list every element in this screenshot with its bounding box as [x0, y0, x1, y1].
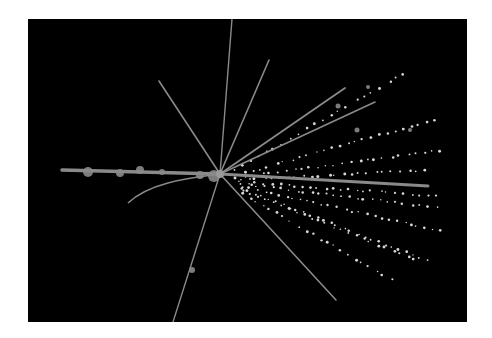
- track-dot: [423, 226, 426, 229]
- track-dot: [340, 195, 342, 197]
- dots-2: [236, 119, 435, 176]
- track-dot: [320, 239, 322, 241]
- track-dot: [409, 169, 412, 172]
- track-dot: [369, 92, 371, 94]
- track-dot: [281, 161, 282, 162]
- track-dot: [277, 194, 280, 197]
- track-dot: [377, 271, 379, 273]
- track-dot: [347, 188, 350, 191]
- track-dot: [241, 192, 244, 195]
- track-dot: [396, 219, 398, 221]
- track-dot: [309, 186, 312, 189]
- track-dot: [317, 167, 319, 169]
- track-dot: [360, 261, 362, 263]
- track-dot: [300, 199, 302, 201]
- track-dot: [345, 228, 347, 230]
- track-dot: [332, 187, 335, 190]
- dots-9: [241, 192, 393, 281]
- track-dot: [301, 191, 304, 194]
- track-dot: [316, 151, 317, 152]
- track-dot: [412, 254, 413, 255]
- track-dot: [326, 241, 329, 244]
- track-dot: [387, 132, 389, 134]
- track-dot: [415, 225, 417, 227]
- track-dot: [298, 156, 300, 158]
- track-dot: [288, 190, 290, 192]
- track-left-curve: [128, 174, 220, 203]
- track-dot: [317, 219, 320, 222]
- track-dot: [263, 205, 265, 207]
- track-dot: [348, 142, 350, 144]
- track-dot: [355, 259, 358, 262]
- track-dot: [357, 172, 359, 174]
- track-dot: [365, 172, 367, 174]
- track-dot: [316, 175, 319, 178]
- collision-vertex: [216, 170, 224, 178]
- track-dot: [380, 199, 381, 200]
- track-dot: [277, 172, 279, 174]
- track-dot: [357, 211, 359, 213]
- track-dot: [406, 222, 408, 224]
- track-dot: [398, 252, 400, 254]
- event-display: [28, 19, 467, 322]
- track-dot: [385, 245, 387, 247]
- track-dot: [325, 165, 326, 166]
- track-dot: [390, 81, 392, 83]
- track-dot: [435, 194, 437, 196]
- track-dot: [426, 121, 429, 124]
- dots-5: [240, 183, 439, 208]
- track-dot: [287, 196, 289, 198]
- track-dot: [377, 240, 380, 243]
- track-dot: [370, 239, 372, 241]
- dots-3: [234, 150, 442, 180]
- track-dot: [315, 187, 317, 189]
- track-dot: [283, 203, 285, 205]
- track-dot: [270, 192, 273, 195]
- track-dot: [415, 170, 417, 172]
- track-dot: [346, 209, 348, 211]
- track-dot: [250, 197, 253, 200]
- track-dot: [366, 265, 368, 267]
- track-dot: [388, 218, 391, 221]
- track-dot: [395, 76, 397, 78]
- track-dot: [351, 211, 353, 213]
- track-dot: [296, 212, 298, 214]
- track-dot: [340, 189, 342, 191]
- track-dot: [322, 219, 325, 222]
- track-dot: [408, 256, 411, 259]
- particle-tracks: [28, 19, 467, 322]
- track-dot: [431, 150, 433, 152]
- track-dot: [294, 209, 296, 211]
- track-dot: [423, 169, 426, 172]
- track-dot: [249, 193, 251, 195]
- track-dot: [405, 250, 408, 253]
- track-dot: [326, 204, 328, 206]
- dots-7: [241, 187, 429, 261]
- track-dot: [399, 170, 401, 172]
- track-dot: [245, 189, 248, 192]
- track-dot: [249, 178, 251, 180]
- track-blob: [355, 128, 360, 133]
- track-dot: [410, 223, 413, 226]
- track-dot: [305, 154, 307, 156]
- track-dot: [372, 198, 374, 200]
- track-dot: [409, 153, 411, 155]
- track-blob: [136, 166, 144, 174]
- track-blob: [196, 171, 204, 179]
- track-dot: [311, 218, 313, 220]
- track-dot: [333, 227, 334, 228]
- track-dot: [288, 207, 291, 210]
- track-dot: [259, 169, 261, 171]
- track-dot: [255, 186, 256, 188]
- track-dot: [367, 159, 369, 161]
- track-dot: [369, 189, 371, 191]
- track-dot: [347, 232, 349, 234]
- dots-4: [240, 169, 426, 181]
- track-dot: [280, 205, 282, 207]
- track-dot: [424, 152, 426, 154]
- track-dot: [334, 224, 336, 226]
- track-dot: [320, 204, 322, 206]
- track-dot: [380, 274, 383, 277]
- track-dot: [234, 169, 236, 171]
- track-dot: [257, 196, 259, 198]
